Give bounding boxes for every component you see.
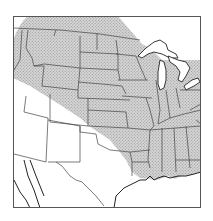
lake-michigan	[158, 60, 166, 90]
range-map	[0, 0, 213, 221]
map-canvas	[0, 0, 213, 221]
